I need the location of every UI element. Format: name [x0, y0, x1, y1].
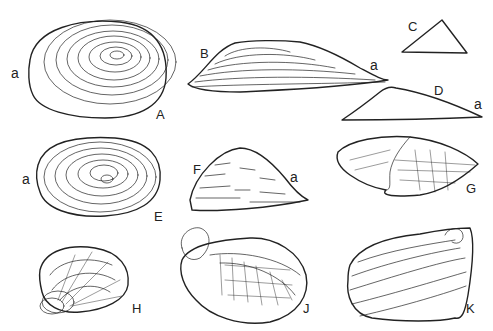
label-c: C: [408, 20, 417, 33]
shell-d-outline: [342, 87, 482, 120]
label-a-small: a: [11, 66, 19, 80]
shell-plate-figure: a A B a C D a a E F a G H J K: [0, 0, 493, 331]
label-j: J: [303, 302, 310, 315]
label-e: E: [154, 210, 163, 223]
label-f-small: a: [290, 170, 298, 184]
shell-h-drawing: [40, 247, 129, 314]
shell-a-drawing: [29, 20, 176, 118]
label-a: A: [156, 108, 165, 121]
shell-g-drawing: [337, 137, 478, 196]
label-k: K: [466, 302, 475, 315]
shell-e-drawing: [37, 138, 161, 217]
shell-drawings: [0, 0, 493, 331]
shell-b-drawing: [188, 41, 388, 92]
shell-j-drawing: [181, 228, 307, 323]
label-d: D: [434, 84, 443, 97]
label-h: H: [132, 302, 141, 315]
label-f: F: [193, 163, 201, 176]
label-b-small: a: [370, 58, 378, 72]
label-b: B: [200, 47, 209, 60]
shell-k-drawing: [348, 228, 473, 321]
label-d-small: a: [474, 97, 482, 111]
label-g: G: [466, 182, 476, 195]
label-e-small: a: [22, 172, 30, 186]
